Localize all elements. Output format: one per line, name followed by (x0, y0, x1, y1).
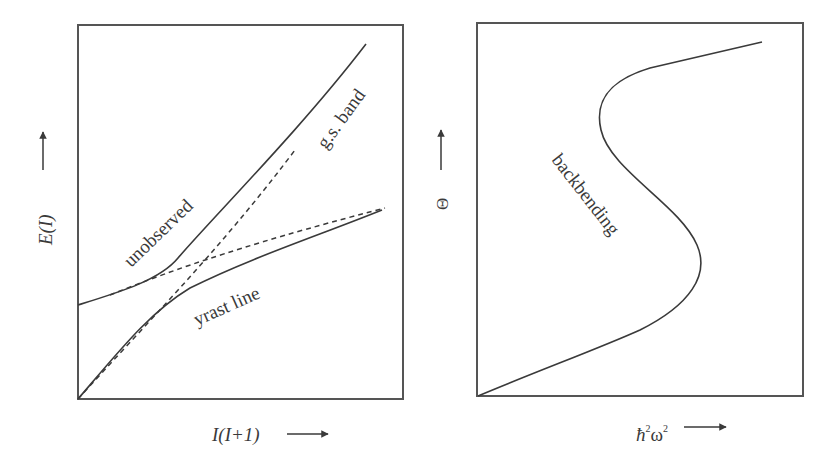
label-yrast-line: yrast line (190, 282, 263, 330)
y-axis-label: E(I) (35, 214, 57, 246)
hbar: ħ (636, 424, 646, 445)
upper-solid-curve (78, 44, 366, 305)
left-chart: unobserved g.s. band yrast line E(I) I(I… (35, 25, 403, 446)
backbending-curve (478, 42, 762, 396)
figure: unobserved g.s. band yrast line E(I) I(I… (0, 0, 830, 464)
label-gs-band: g.s. band (312, 85, 369, 153)
omega: ω (651, 424, 664, 445)
label-unobserved: unobserved (119, 195, 197, 271)
right-plot-frame (477, 23, 803, 396)
label-backbending: backbending (548, 150, 625, 240)
x-axis-label: ħ2ω2 (636, 423, 668, 445)
right-chart: backbending Θ ħ2ω2 (433, 23, 803, 445)
x-axis-label: I(I+1) (211, 424, 260, 446)
sup-2: 2 (663, 423, 668, 434)
y-axis-label-theta: Θ (433, 198, 452, 210)
